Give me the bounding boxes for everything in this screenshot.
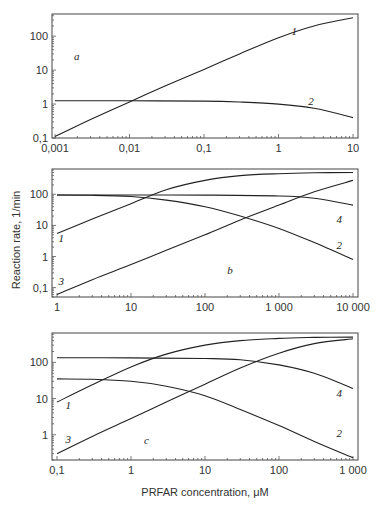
y-axis-title: Reaction rate, 1/min [10, 191, 22, 289]
x-tick-label: 0,1 [196, 142, 211, 154]
y-tick-label: 100 [30, 188, 48, 200]
y-tick-label: 1 [42, 98, 48, 110]
panel-a: 0,0010,010,11100,111010012a [30, 14, 359, 154]
x-tick-label: 1 000 [339, 464, 367, 476]
curve-b-1 [57, 173, 353, 234]
curve-c-1 [57, 337, 353, 402]
panel-letter-b: b [227, 264, 233, 276]
x-tick-label: 10 [347, 142, 359, 154]
curve-b-4 [57, 195, 353, 205]
curve-label: 4 [337, 387, 343, 399]
plot-frame-a [52, 14, 358, 138]
x-tick-label: 0,01 [119, 142, 140, 154]
y-tick-label: 1 [42, 429, 48, 441]
y-tick-label: 0,1 [33, 132, 48, 144]
y-tick-label: 10 [36, 393, 48, 405]
curve-b-2 [57, 195, 353, 260]
x-tick-label: 1 000 [265, 301, 293, 313]
curve-label: 2 [337, 427, 343, 439]
curve-label: 3 [58, 275, 65, 287]
y-tick-label: 1 [42, 251, 48, 263]
x-tick-label: 10 [125, 301, 137, 313]
x-tick-label: 10 [199, 464, 211, 476]
panel-letter-a: a [74, 50, 80, 62]
curve-label: 4 [337, 213, 343, 225]
x-tick-label: 0,1 [49, 464, 64, 476]
panel-c: 0,11101001 0001101001234c [30, 333, 367, 476]
curve-label: 1 [59, 232, 65, 244]
x-tick-label: 100 [270, 464, 288, 476]
curve-label: 1 [292, 25, 298, 37]
curve-label: 1 [65, 399, 71, 411]
panel-b: 1101001 00010 0000,11101001234b [30, 169, 370, 313]
y-tick-label: 100 [30, 356, 48, 368]
x-tick-label: 100 [196, 301, 214, 313]
curve-c-2 [57, 379, 353, 458]
y-tick-label: 100 [30, 30, 48, 42]
figure-canvas: 0,0010,010,11100,111010012a 1101001 0001… [0, 0, 383, 508]
x-tick-label: 10 000 [336, 301, 370, 313]
x-tick-label: 1 [54, 301, 60, 313]
curve-label: 2 [308, 95, 314, 107]
x-tick-label: 1 [275, 142, 281, 154]
panel-letter-c: c [144, 434, 149, 446]
x-tick-label: 1 [128, 464, 134, 476]
y-tick-label: 0,1 [33, 282, 48, 294]
y-tick-label: 10 [36, 64, 48, 76]
curve-a-1 [55, 18, 353, 137]
y-tick-label: 10 [36, 219, 48, 231]
curve-label: 3 [64, 433, 71, 445]
curve-label: 2 [337, 239, 343, 251]
x-axis-title: PRFAR concentration, μM [141, 486, 268, 498]
